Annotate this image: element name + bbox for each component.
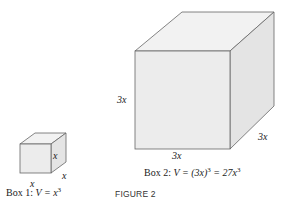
box1-depth-label: x (62, 170, 66, 181)
box1-caption-formula: V = x (35, 187, 57, 198)
box2-caption-formula-b: = 27x (211, 167, 237, 178)
box2-caption: Box 2: V = (3x)3 = 27x3 (144, 166, 240, 178)
cube-diagram (0, 0, 284, 206)
box1-caption-prefix: Box 1: (6, 187, 33, 198)
box2-caption-formula-a: V = (3x) (173, 167, 207, 178)
box1-height-label: x (53, 150, 57, 161)
box1-caption-exponent: 3 (58, 186, 62, 194)
box2-caption-exponent-b: 3 (237, 166, 241, 174)
figure-title: FIGURE 2 (115, 189, 156, 199)
box2-depth-label: 3x (258, 131, 267, 142)
large-cube (135, 12, 274, 149)
box2-caption-prefix: Box 2: (144, 167, 171, 178)
box2-height-label: 3x (117, 94, 126, 105)
box2-width-label: 3x (172, 150, 181, 161)
small-cube (20, 133, 66, 173)
box1-caption: Box 1: V = x3 (6, 186, 61, 198)
